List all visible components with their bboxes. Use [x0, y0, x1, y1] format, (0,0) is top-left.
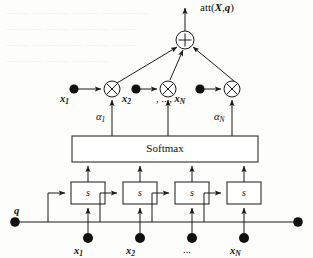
top-input-n-sub: N	[180, 97, 185, 106]
bottom-input-2-sub: 2	[131, 249, 135, 258]
input-dot-n	[239, 233, 249, 243]
output-label-close: )	[230, 1, 234, 13]
top-input-label-n: , ..., xN	[156, 94, 185, 105]
product-n-to-sum	[193, 47, 234, 81]
score-box-label-3: s	[175, 188, 209, 198]
bottom-input-n-sub: N	[235, 249, 240, 258]
bottom-input-label-3: ...	[183, 245, 191, 256]
bottom-input-label-2: x2	[126, 246, 135, 257]
bottom-input-label-n: xN	[230, 246, 241, 257]
output-label-x: X	[215, 1, 222, 13]
query-dot	[10, 217, 20, 227]
alpha-1-sub: 1	[102, 115, 106, 124]
bottom-input-1-sub: 1	[79, 249, 83, 258]
input-dot-3	[187, 233, 197, 243]
query-branch-1	[48, 193, 65, 222]
query-label: q	[14, 206, 19, 217]
top-input-1-sub: 1	[65, 97, 69, 106]
value-dot-1	[69, 84, 78, 93]
alpha-label-n: αN	[214, 112, 225, 123]
output-label-fn: att(	[200, 1, 215, 13]
output-label: att(X,q)	[200, 2, 234, 13]
score-box-label-1: s	[71, 188, 105, 198]
attention-diagram	[0, 0, 313, 258]
product-2-to-sum	[170, 50, 183, 80]
top-input-label-1: x1	[60, 94, 69, 105]
top-input-label-2: x2	[122, 94, 131, 105]
alpha-label-1: α1	[96, 112, 105, 123]
value-dot-2	[131, 84, 140, 93]
product-1-to-sum	[117, 47, 177, 83]
bottom-input-label-1: x1	[74, 246, 83, 257]
query-bus-end-dot	[293, 217, 303, 227]
top-input-2-sub: 2	[127, 97, 131, 106]
score-box-label-4: s	[227, 188, 261, 198]
alpha-n-sub: N	[220, 115, 225, 124]
value-dot-n	[195, 84, 204, 93]
input-dot-2	[135, 233, 145, 243]
input-dot-1	[83, 233, 93, 243]
softmax-label: Softmax	[72, 143, 258, 154]
top-input-ellipsis: , ...,	[156, 93, 174, 104]
score-box-label-2: s	[123, 188, 157, 198]
bottom-input-3-name: ...	[183, 244, 191, 255]
